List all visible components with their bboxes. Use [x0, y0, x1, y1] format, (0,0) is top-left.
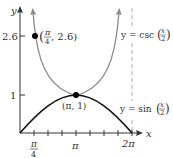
csc-legend-label: y = csc ( x 2 ) [120, 26, 172, 43]
y-tick-2-6: 2.6 [2, 31, 18, 42]
sin-legend-label: y = sin ( x 2 ) [119, 101, 173, 117]
point-pi4-2-6 [32, 33, 38, 39]
svg-text:): ) [166, 28, 171, 42]
svg-text:): ) [165, 102, 170, 116]
svg-text:2: 2 [160, 109, 164, 117]
x-tick-pi: π [71, 140, 79, 151]
y-ticks [20, 36, 25, 95]
x-tick-pi4-num: π [30, 139, 38, 149]
point-label-pi4: ( π 4 , 2.6) [39, 28, 77, 46]
svg-text:y = csc: y = csc [120, 30, 154, 40]
svg-text:4: 4 [45, 38, 50, 46]
chart: x y 2.6 1 π 4 π 2π ( π 4 [0, 0, 173, 158]
csc-curve [33, 12, 119, 95]
svg-text:(: ( [39, 29, 44, 44]
point-label-pi-1: (π, 1) [62, 101, 86, 111]
x-tick-pi4-den: 4 [31, 150, 36, 158]
svg-text:y = sin: y = sin [119, 104, 152, 114]
x-tick-2pi: 2π [121, 138, 135, 149]
y-axis-label: y [10, 5, 17, 16]
svg-text:x: x [161, 27, 165, 35]
svg-text:2: 2 [161, 35, 165, 43]
svg-text:π: π [44, 28, 51, 37]
svg-text:x: x [160, 101, 164, 109]
point-pi-1 [73, 92, 79, 98]
x-axis-label: x [146, 128, 152, 139]
y-tick-1: 1 [10, 90, 16, 101]
y-axis: y [10, 5, 23, 133]
svg-text:, 2.6): , 2.6) [51, 31, 77, 42]
